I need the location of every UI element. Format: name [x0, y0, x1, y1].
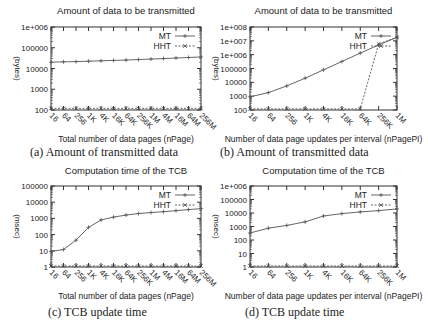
y-tick-label: 1 [44, 263, 49, 272]
y-tick-label: 1000 [229, 92, 247, 101]
y-axis: 110100100010000100000 [21, 182, 201, 272]
series-mt [49, 207, 203, 254]
legend: MTHHT [350, 190, 391, 210]
x-tick-label: 4M [160, 111, 174, 125]
x-tick-label: 64 [60, 111, 73, 124]
chart-panel-b: Amount of data to be transmitted10010001… [212, 5, 422, 159]
y-tick-label: 100000 [220, 196, 247, 205]
legend-label-mt: MT [355, 31, 367, 41]
panel-caption-b: (b) Amount of transmitted data [220, 145, 369, 159]
chart-title: Computation time of the TCB [65, 165, 187, 176]
x-axis: 16642561K4K16K64K256K1M [247, 186, 408, 288]
x-tick-label: 256 [73, 111, 89, 127]
y-tick-label: 100000 [21, 182, 48, 191]
x-tick-label: 64K [357, 111, 374, 128]
y-tick-label: 100 [234, 106, 248, 115]
plot-frame [250, 186, 397, 267]
y-tick-label: 1000 [30, 85, 48, 94]
y-tick-label: 1e+006 [220, 51, 247, 60]
x-tick-label: 1M [394, 111, 408, 125]
y-tick-label: 10 [238, 250, 247, 259]
x-tick-label: 64 [60, 268, 73, 281]
x-axis-label: Number of data page updates per interval… [225, 134, 423, 144]
x-tick-label: 4K [98, 111, 112, 125]
series-hht [248, 36, 399, 111]
y-tick-label: 100 [35, 106, 49, 115]
series-mt [49, 55, 203, 64]
x-tick-label: 256 [283, 111, 299, 127]
x-tick-label: 1K [302, 268, 316, 282]
x-tick-label: 64K [123, 268, 140, 285]
y-axis-label: (msec) [13, 214, 22, 239]
y-tick-label: 1e+006 [220, 182, 247, 191]
x-tick-label: 4K [320, 111, 334, 125]
y-tick-label: 10000 [26, 198, 49, 207]
chart-panel-c: Computation time of the TCB1101001000100… [13, 165, 218, 319]
x-tick-label: 64K [123, 111, 140, 128]
chart-panel-a: Amount of data to be transmitted10010001… [13, 5, 218, 159]
x-tick-label: 4K [320, 268, 334, 282]
legend-label-mt: MT [159, 31, 171, 41]
figure-canvas: Amount of data to be transmitted10010001… [0, 0, 428, 327]
y-axis-label: (bytes) [13, 56, 22, 81]
y-tick-label: 100 [234, 236, 248, 245]
x-tick-label: 64K [357, 268, 374, 285]
y-tick-label: 10000 [225, 78, 248, 87]
x-tick-label: 1K [302, 111, 316, 125]
legend: MTHHT [154, 31, 195, 51]
y-axis: 1001000100001000001e+006 [21, 23, 201, 115]
x-tick-label: 16 [247, 111, 260, 124]
y-tick-label: 10000 [26, 65, 49, 74]
plot-frame [51, 186, 201, 267]
y-tick-label: 10000 [225, 209, 248, 218]
y-axis-label: (bytes) [212, 56, 221, 81]
x-tick-label: 16K [110, 111, 127, 128]
x-tick-label: 64 [265, 268, 278, 281]
x-tick-label: 16K [338, 111, 355, 128]
legend: MTHHT [350, 31, 391, 51]
x-tick-label: 1K [85, 268, 99, 282]
x-axis-label: Total number of data pages (nPage) [58, 134, 194, 144]
chart-title: Computation time of the TCB [262, 165, 384, 176]
series-mt [248, 35, 399, 98]
x-tick-label: 64 [265, 111, 278, 124]
x-tick-label: 16 [48, 111, 61, 124]
legend-label-hht: HHT [350, 200, 367, 210]
y-tick-label: 1e+008 [220, 23, 247, 32]
panel-caption-c: (c) TCB update time [48, 305, 147, 319]
plot-frame [51, 27, 201, 110]
chart-title: Amount of data to be transmitted [255, 5, 393, 16]
x-tick-label: 1K [85, 111, 99, 125]
y-tick-label: 10 [39, 247, 48, 256]
legend-label-mt: MT [159, 190, 171, 200]
legend-label-mt: MT [355, 190, 367, 200]
y-axis: 1001000100001000001e+0061e+0071e+008 [220, 23, 397, 115]
panel-caption-d: (d) TCB update time [245, 305, 344, 319]
x-tick-label: 16 [247, 268, 260, 281]
x-tick-label: 16K [110, 268, 127, 285]
legend-label-hht: HHT [154, 200, 171, 210]
x-tick-label: 256 [283, 268, 299, 284]
y-tick-label: 100 [35, 231, 49, 240]
panel-caption-a: (a) Amount of transmitted data [30, 145, 179, 159]
legend: MTHHT [154, 190, 195, 210]
x-axis-label: Total number of data pages (nPage) [58, 291, 194, 301]
legend-label-hht: HHT [154, 41, 171, 51]
x-tick-label: 16K [338, 268, 355, 285]
x-tick-label: 1M [394, 268, 408, 282]
x-tick-label: 4M [160, 268, 174, 282]
x-axis-label: Number of data page updates per interval… [225, 291, 423, 301]
chart-panel-d: Computation time of the TCB1101001000100… [212, 165, 422, 319]
y-tick-label: 1e+006 [21, 23, 48, 32]
x-tick-label: 4K [98, 268, 112, 282]
x-tick-label: 256K [375, 268, 395, 288]
x-tick-label: 256 [73, 268, 89, 284]
y-tick-label: 1000 [30, 214, 48, 223]
chart-title: Amount of data to be transmitted [57, 5, 195, 16]
y-tick-label: 1000 [229, 223, 247, 232]
x-axis: 16642561K4K16K64K256K1M4M16M64M256M [48, 186, 219, 289]
x-tick-label: 256K [375, 111, 395, 131]
x-tick-label: 16 [48, 268, 61, 281]
y-tick-label: 1e+007 [220, 37, 247, 46]
y-tick-label: 1 [243, 263, 248, 272]
